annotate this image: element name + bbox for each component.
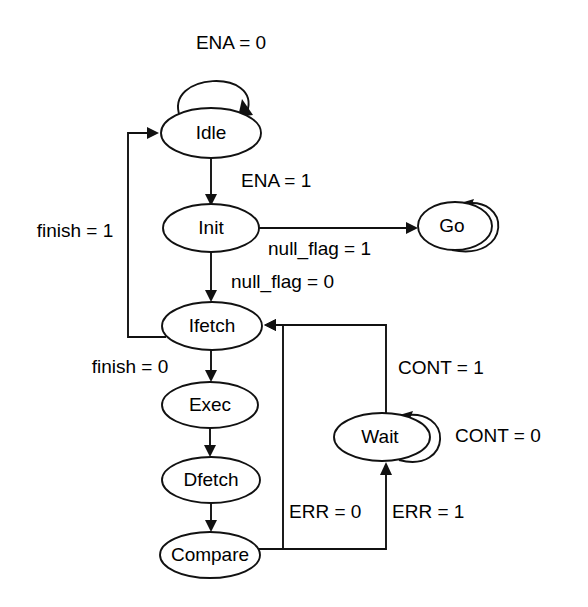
edge-label-compare-wait: ERR = 1: [392, 501, 464, 522]
state-node-dfetch[interactable]: Dfetch: [162, 457, 260, 503]
state-node-init[interactable]: Init: [163, 204, 259, 252]
state-node-compare[interactable]: Compare: [160, 532, 260, 578]
transition-ifetch-exec: [205, 350, 217, 382]
edge-label-init-go: null_flag = 1: [268, 238, 371, 260]
transition-ifetch-idle: [128, 127, 166, 337]
state-node-go[interactable]: Go: [418, 202, 492, 250]
transition-compare-ifetch: [259, 319, 283, 549]
state-node-exec[interactable]: Exec: [162, 382, 258, 428]
state-node-idle[interactable]: Idle: [161, 108, 261, 158]
state-label-wait: Wait: [361, 426, 399, 447]
fsm-canvas: ENA = 0 ENA = 1 null_flag = 1 null_flag …: [0, 0, 588, 607]
state-node-ifetch[interactable]: Ifetch: [162, 302, 262, 350]
edge-label-ifetch-idle: finish = 1: [37, 220, 114, 241]
edge-label-idle-init: ENA = 1: [241, 170, 311, 191]
transition-init-go: [259, 222, 418, 234]
state-node-wait[interactable]: Wait: [334, 413, 430, 461]
edge-label-wait-ifetch: CONT = 1: [398, 357, 484, 378]
edge-label-compare-ifetch: ERR = 0: [289, 501, 361, 522]
edge-label-wait-self: CONT = 0: [455, 425, 541, 446]
state-label-compare: Compare: [171, 544, 249, 565]
state-label-idle: Idle: [196, 122, 227, 143]
state-label-init: Init: [198, 217, 224, 238]
edge-label-ifetch-exec: finish = 0: [92, 356, 169, 377]
state-label-dfetch: Dfetch: [184, 469, 239, 490]
transition-init-ifetch: [205, 252, 217, 302]
edge-label-idle-self: ENA = 0: [196, 32, 266, 53]
transition-idle-init: [205, 158, 217, 206]
edge-label-init-ifetch: null_flag = 0: [231, 271, 334, 293]
transition-exec-dfetch: [204, 428, 216, 457]
state-machine-diagram: ENA = 0 ENA = 1 null_flag = 1 null_flag …: [0, 0, 588, 607]
transition-dfetch-compare: [205, 503, 217, 532]
state-label-ifetch: Ifetch: [189, 315, 235, 336]
state-label-exec: Exec: [189, 394, 231, 415]
state-label-go: Go: [439, 215, 464, 236]
